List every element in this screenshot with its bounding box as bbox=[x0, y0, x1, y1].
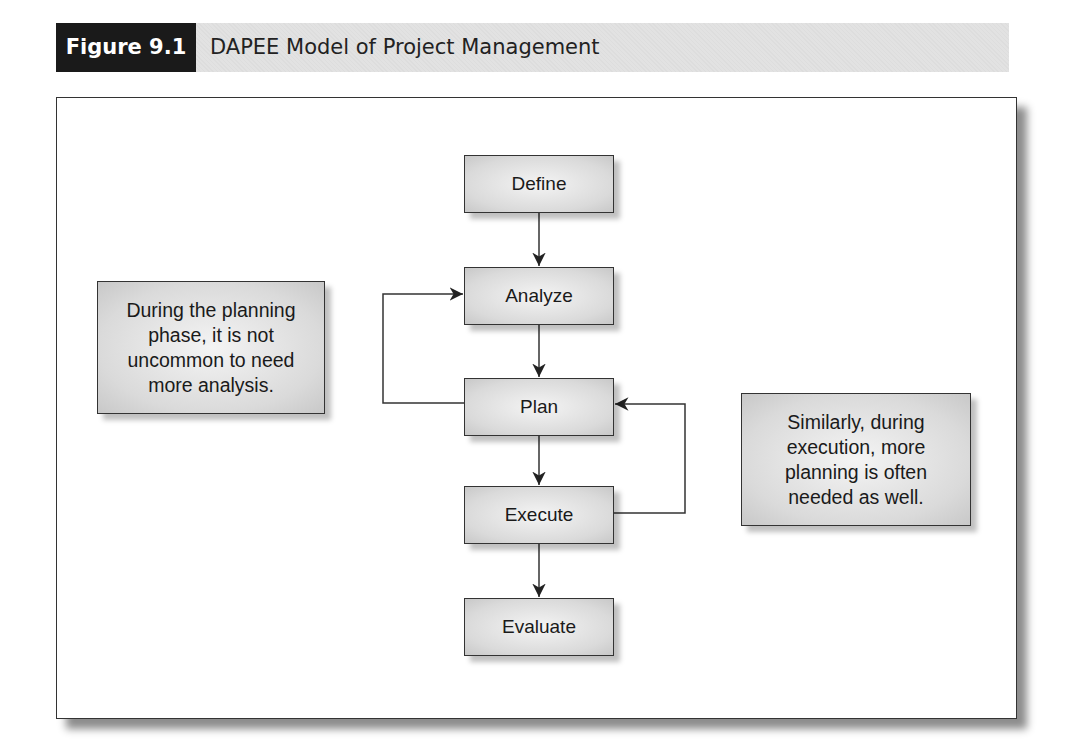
note-planning-analysis: During the planning phase, it is not unc… bbox=[97, 281, 325, 414]
step-execute: Execute bbox=[464, 486, 614, 544]
step-label: Define bbox=[512, 173, 567, 195]
step-define: Define bbox=[464, 155, 614, 213]
step-label: Analyze bbox=[505, 285, 573, 307]
step-evaluate: Evaluate bbox=[464, 598, 614, 656]
step-label: Execute bbox=[505, 504, 574, 526]
step-label: Plan bbox=[520, 396, 558, 418]
figure-header: Figure 9.1 DAPEE Model of Project Manage… bbox=[56, 23, 1009, 72]
note-text: During the planning phase, it is not unc… bbox=[108, 298, 314, 398]
step-analyze: Analyze bbox=[464, 267, 614, 325]
step-plan: Plan bbox=[464, 378, 614, 436]
step-label: Evaluate bbox=[502, 616, 576, 638]
note-execution-planning: Similarly, during execution, more planni… bbox=[741, 393, 971, 526]
note-text: Similarly, during execution, more planni… bbox=[752, 410, 960, 510]
figure-title: DAPEE Model of Project Management bbox=[210, 23, 600, 72]
figure-label: Figure 9.1 bbox=[56, 23, 196, 72]
